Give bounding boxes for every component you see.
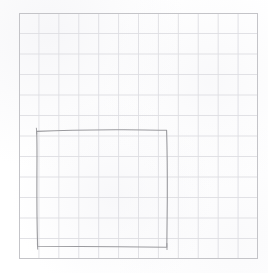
square-outline-path bbox=[37, 130, 168, 248]
grid-paper-drawing bbox=[0, 0, 268, 273]
sketch-canvas bbox=[0, 0, 268, 273]
grid-lines bbox=[19, 13, 258, 259]
hand-drawn-square bbox=[36, 128, 167, 249]
square-corner-overshoots bbox=[36, 128, 167, 249]
